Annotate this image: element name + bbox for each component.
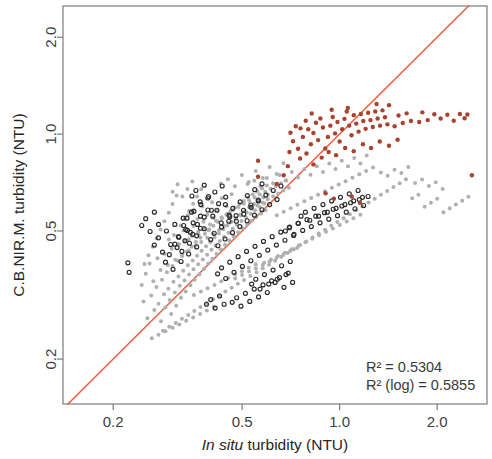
data-point	[183, 278, 187, 282]
data-point	[385, 189, 389, 193]
data-point	[323, 146, 327, 150]
data-point	[184, 290, 188, 294]
data-point	[295, 246, 299, 250]
data-point	[171, 190, 175, 194]
data-point	[302, 167, 306, 171]
data-point	[357, 172, 361, 176]
data-point	[168, 298, 172, 302]
data-point	[330, 186, 334, 190]
data-point	[219, 247, 223, 251]
data-point	[255, 203, 259, 207]
data-point	[209, 248, 213, 252]
data-point	[358, 162, 362, 166]
data-point	[401, 121, 405, 125]
data-point	[294, 124, 298, 128]
data-point	[298, 156, 302, 160]
data-point	[223, 243, 227, 247]
data-point	[287, 186, 291, 190]
data-point	[462, 116, 466, 120]
data-point	[205, 253, 209, 257]
data-point	[351, 149, 355, 153]
data-point	[317, 233, 321, 237]
data-point	[337, 139, 341, 143]
data-point	[162, 219, 166, 223]
data-point	[321, 170, 325, 174]
data-point	[157, 302, 161, 306]
data-point	[247, 199, 251, 203]
data-point	[310, 111, 314, 115]
data-point	[191, 316, 195, 320]
data-point	[420, 178, 424, 182]
data-point	[309, 173, 313, 177]
data-point	[184, 319, 188, 323]
data-point	[166, 287, 170, 291]
data-point	[193, 278, 197, 282]
data-point	[438, 116, 442, 120]
data-point	[207, 228, 211, 232]
data-point	[342, 216, 346, 220]
data-point	[271, 181, 275, 185]
data-point	[254, 169, 258, 173]
data-point	[287, 150, 291, 154]
data-point	[181, 269, 185, 273]
data-point	[247, 266, 251, 270]
data-point	[187, 273, 191, 277]
data-point	[258, 193, 262, 197]
data-point	[202, 267, 206, 271]
x-tick-label: 1.0	[329, 413, 350, 430]
data-point	[199, 305, 203, 309]
data-point	[349, 133, 353, 137]
data-point	[342, 117, 346, 121]
data-point	[288, 130, 292, 134]
data-point	[358, 201, 362, 205]
data-point	[212, 224, 216, 228]
data-point	[194, 240, 198, 244]
data-point	[441, 187, 445, 191]
data-point	[227, 239, 231, 243]
data-point	[460, 199, 464, 203]
data-point	[363, 127, 367, 131]
data-point	[173, 290, 177, 294]
y-tick-label: 0.5	[42, 221, 59, 242]
data-point	[434, 180, 438, 184]
data-point	[454, 203, 458, 207]
data-point	[165, 270, 169, 274]
data-point	[233, 276, 237, 280]
data-point	[265, 184, 269, 188]
data-point	[374, 102, 378, 106]
data-point	[290, 170, 294, 174]
data-point	[396, 113, 400, 117]
data-point	[188, 283, 192, 287]
data-point	[361, 142, 365, 146]
data-point	[338, 223, 342, 227]
data-point	[404, 111, 408, 115]
data-point	[337, 183, 341, 187]
data-point	[340, 127, 344, 131]
data-point	[150, 336, 154, 340]
data-point	[350, 194, 354, 198]
data-point	[174, 321, 178, 325]
data-point	[375, 116, 379, 120]
data-point	[199, 187, 203, 191]
data-point	[350, 176, 354, 180]
data-point	[275, 182, 279, 186]
data-point	[175, 194, 179, 198]
data-point	[233, 184, 237, 188]
plot-canvas: 0.20.51.02.0 0.20.51.02.0 In situ turbid…	[0, 0, 492, 459]
data-point	[311, 162, 315, 166]
data-point	[192, 309, 196, 313]
data-point	[186, 313, 190, 317]
data-point	[178, 284, 182, 288]
data-point	[410, 196, 414, 200]
r-squared-log-annotation: R² (log) = 0.5855	[366, 377, 475, 393]
data-point	[160, 278, 164, 282]
data-point	[275, 172, 279, 176]
data-point	[220, 215, 224, 219]
data-point	[328, 123, 332, 127]
data-point	[271, 194, 275, 198]
data-point	[140, 283, 144, 287]
data-point	[195, 194, 199, 198]
data-point	[196, 262, 200, 266]
data-point	[327, 162, 331, 166]
data-point	[155, 256, 159, 260]
